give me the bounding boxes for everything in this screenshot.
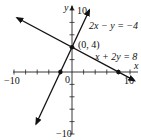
y-tick-label-neg10: −10 [56, 129, 72, 139]
point-marker [70, 45, 74, 49]
x-tick-label-neg10: −10 [4, 76, 20, 86]
line-2x-minus-y-eq-neg4 [36, 10, 89, 124]
intersection-label: (0, 4) [78, 40, 100, 50]
y-axis-label: y [64, 3, 68, 13]
y-tick-label-10: 10 [77, 6, 87, 16]
origin-label: 0 [65, 75, 70, 85]
x-axis-label: x [134, 61, 138, 71]
point-marker [116, 70, 120, 74]
equation-label-line2: x + 2y = 8 [95, 52, 137, 62]
x-tick-label-10: 10 [124, 76, 134, 86]
point-marker [58, 70, 62, 74]
equation-label-line1: 2x − y = −4 [89, 21, 138, 31]
